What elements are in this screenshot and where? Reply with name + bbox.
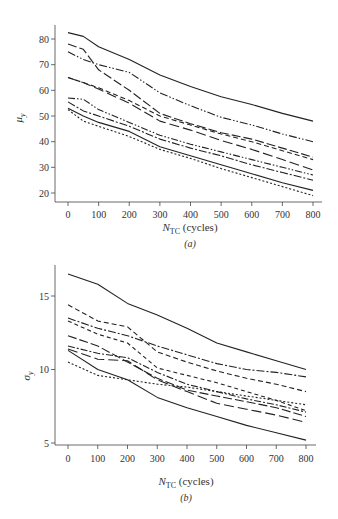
y-axis-title-b: σy [20,371,35,380]
x-tick-label: 200 [122,209,137,220]
x-axis-a: 0100200300400500600700800 [55,202,322,220]
x-tick-label: 300 [150,453,165,464]
plot-lines-a [68,33,313,196]
y-tick-label: 20 [39,188,49,199]
data-line-series-7 [68,349,306,423]
data-line-series-4 [68,78,313,160]
x-tick-label: 700 [269,453,284,464]
x-tick-label: 500 [209,453,224,464]
x-tick-label: 200 [120,453,135,464]
x-tick-label: 400 [183,209,198,220]
y-tick-label: 5 [44,438,49,449]
panel-caption-a: (a) [184,238,196,250]
x-tick-label: 600 [244,209,259,220]
data-line-series-9 [68,110,313,196]
y-axis-b: 51015 [39,265,55,449]
x-tick-label: 400 [180,453,195,464]
data-line-series-7 [68,102,313,180]
y-axis-title-a: μy [12,113,27,124]
x-tick-label: 800 [299,453,314,464]
x-axis-b: 0100200300400500600700800 [55,445,316,464]
x-tick-label: 300 [152,209,167,220]
x-tick-label: 0 [66,453,71,464]
data-line-series-3 [68,318,306,377]
chart-panel-a: 20304050607080 0100200300400500600700800… [0,0,338,255]
x-tick-label: 0 [66,209,71,220]
data-line-series-3 [68,44,313,157]
data-line-series-6 [68,98,313,175]
x-tick-label: 700 [275,209,290,220]
x-tick-label: 100 [90,453,105,464]
plot-lines-b [68,274,306,440]
data-line-series-1 [68,33,313,122]
x-axis-title-b: NTC (cycles) [157,475,213,490]
x-axis-title-a: NTC (cycles) [161,221,217,236]
x-tick-label: 600 [239,453,254,464]
y-tick-label: 40 [39,136,49,147]
data-line-series-6 [68,346,306,412]
x-tick-label: 500 [214,209,229,220]
y-tick-label: 80 [39,34,49,45]
y-tick-label: 10 [39,364,49,375]
data-line-series-5 [68,336,306,417]
y-tick-label: 60 [39,85,49,96]
chart-panel-b: 51015 0100200300400500600700800 σy NTC (… [0,255,338,519]
data-line-series-4 [68,321,306,411]
data-line-series-9 [68,350,306,440]
y-axis-a: 20304050607080 [39,25,55,202]
figure: 20304050607080 0100200300400500600700800… [0,0,338,519]
data-line-series-1 [68,274,306,370]
x-tick-label: 100 [91,209,106,220]
x-tick-label: 800 [306,209,321,220]
data-line-series-2 [68,305,306,392]
y-tick-label: 50 [39,111,49,122]
panel-caption-b: (b) [180,492,192,504]
y-tick-label: 15 [39,291,49,302]
y-tick-label: 70 [39,59,49,70]
y-tick-label: 30 [39,162,49,173]
